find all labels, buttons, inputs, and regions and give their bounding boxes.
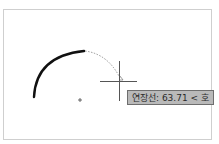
drawing-canvas[interactable] <box>0 0 219 144</box>
tooltip-label: 연장선: 63.71 < 호 <box>132 91 209 104</box>
arc-solid[interactable] <box>34 51 84 97</box>
dynamic-input-tooltip: 연장선: 63.71 < 호 <box>127 90 214 105</box>
center-point-icon <box>78 98 82 102</box>
arc-extension-preview <box>85 51 120 78</box>
